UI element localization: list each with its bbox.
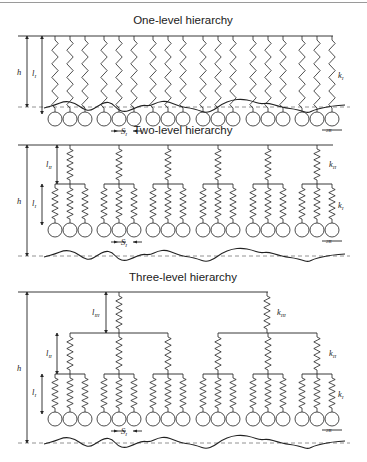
spring-level-2: [116, 145, 122, 184]
spring-level-1: [329, 36, 335, 112]
label-2R: 2R: [326, 239, 332, 244]
spring-level-1: [314, 374, 320, 412]
mass-ball: [276, 112, 290, 126]
spring-level-1: [82, 36, 88, 112]
mass-ball: [295, 223, 309, 237]
height-dimension-h-head-bottom: [25, 253, 28, 256]
spring-level-1: [116, 36, 122, 112]
label-l-I: lI: [32, 198, 36, 209]
mass-ball: [63, 412, 77, 426]
panel-1: One-level hierarchy: [18, 14, 350, 126]
mass-ball: [146, 412, 160, 426]
spring-level-1: [116, 374, 122, 412]
spring-level-1: [215, 36, 221, 112]
spring-level-1: [280, 184, 286, 223]
mass-ball: [196, 412, 210, 426]
spring-level-2: [165, 333, 171, 374]
mass-ball: [310, 112, 324, 126]
mass-ball: [276, 412, 290, 426]
spring-level-2: [67, 145, 73, 184]
panel-3: Three-level hierarchy: [18, 271, 350, 443]
spring-level-1: [82, 184, 88, 223]
spring-level-1: [67, 374, 73, 412]
label-l-II: lII: [46, 348, 52, 359]
mass-ball: [146, 223, 160, 237]
spring-level-1: [180, 36, 186, 112]
mass-ball: [78, 412, 92, 426]
label-k-I: kI: [338, 200, 344, 211]
mass-ball: [97, 223, 111, 237]
mass-ball: [97, 412, 111, 426]
mass-ball: [127, 412, 141, 426]
label-2R: 2R: [326, 428, 332, 433]
spring-level-1: [150, 184, 156, 223]
spring-level-3: [264, 292, 270, 333]
mass-ball: [325, 223, 339, 237]
label-S-I: SI: [121, 237, 127, 248]
label-S-I: SI: [121, 126, 127, 137]
spring-level-2: [67, 333, 73, 374]
spring-level-1: [280, 374, 286, 412]
mass-ball: [261, 112, 275, 126]
mass-ball: [226, 412, 240, 426]
spring-level-1: [165, 374, 171, 412]
spring-level-1: [265, 374, 271, 412]
mass-ball: [325, 112, 339, 126]
mass-ball: [161, 223, 175, 237]
spring-level-1: [52, 184, 58, 223]
spring-level-1: [52, 374, 58, 412]
mass-ball: [176, 412, 190, 426]
spring-level-1: [82, 374, 88, 412]
height-dimension-h-head-bottom: [25, 104, 28, 107]
spring-level-2: [265, 333, 271, 374]
mass-ball: [276, 223, 290, 237]
length-dimension-l1-head-bottom: [40, 411, 43, 414]
mass-ball: [176, 223, 190, 237]
spring-level-1: [250, 374, 256, 412]
spring-level-1: [265, 36, 271, 112]
mass-ball: [48, 223, 62, 237]
spring-level-1: [329, 374, 335, 412]
length-dimension-l3-head-top: [104, 292, 107, 295]
hierarchical-spring-diagram: One-level hierarchyhlIkISI2RTwo-level hi…: [0, 0, 367, 462]
length-dimension-l1-head-bottom: [40, 222, 43, 225]
rough-surface-profile: [44, 435, 345, 448]
spring-level-3: [116, 292, 122, 333]
spring-level-2: [215, 145, 221, 184]
length-dimension-l1-head-bottom: [40, 111, 43, 114]
spring-level-1: [67, 184, 73, 223]
mass-ball: [211, 223, 225, 237]
spring-level-1: [180, 374, 186, 412]
mass-ball: [112, 223, 126, 237]
spring-level-1: [116, 184, 122, 223]
mass-ball: [246, 112, 260, 126]
panel-title: One-level hierarchy: [133, 14, 233, 26]
rough-surface-profile: [44, 248, 345, 261]
spring-level-1: [250, 184, 256, 223]
mass-ball: [261, 412, 275, 426]
mass-ball: [112, 112, 126, 126]
label-l-I: lI: [32, 387, 36, 398]
spring-level-1: [131, 374, 137, 412]
spring-level-1: [52, 36, 58, 112]
spring-level-1: [165, 36, 171, 112]
spring-level-1: [299, 36, 305, 112]
label-k-I: kI: [338, 70, 344, 81]
mass-ball: [310, 223, 324, 237]
label-h: h: [17, 196, 21, 206]
length-dimension-l1-head-top: [40, 374, 43, 377]
spring-level-1: [67, 36, 73, 112]
spring-level-1: [265, 184, 271, 223]
mass-ball: [196, 223, 210, 237]
height-dimension-h-head-top: [25, 292, 28, 295]
mass-ball: [97, 112, 111, 126]
label-k-III: kIII: [277, 307, 286, 318]
spring-level-1: [215, 374, 221, 412]
spring-level-1: [131, 36, 137, 112]
mass-ball: [63, 223, 77, 237]
spring-level-1: [314, 36, 320, 112]
spring-level-1: [165, 184, 171, 223]
mass-ball: [226, 223, 240, 237]
spring-level-1: [215, 184, 221, 223]
length-dimension-l2-head-top: [55, 333, 58, 336]
